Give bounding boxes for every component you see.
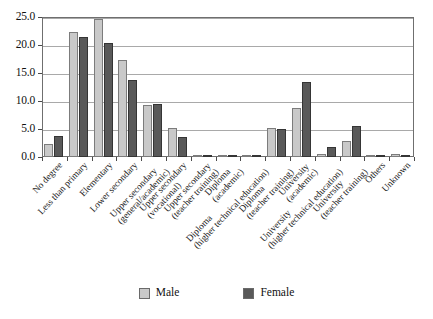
legend-label-female: Female: [260, 287, 294, 299]
bar-group: [240, 17, 265, 157]
y-tick-label: 25.0: [0, 11, 35, 23]
bar-female[interactable]: [104, 43, 113, 157]
bar-group: [364, 17, 389, 157]
bar-male[interactable]: [44, 144, 53, 157]
bar-female[interactable]: [327, 147, 336, 157]
bars-layer: [42, 17, 414, 157]
legend: Male Female: [0, 283, 433, 303]
legend-entry-male[interactable]: Male: [139, 287, 180, 299]
bar-group: [42, 17, 67, 157]
bar-male[interactable]: [342, 141, 351, 157]
bar-male[interactable]: [118, 60, 127, 157]
bar-female[interactable]: [252, 155, 261, 157]
legend-entry-female[interactable]: Female: [243, 287, 294, 299]
bar-male[interactable]: [69, 32, 78, 157]
y-tick-label: 20.0: [0, 39, 35, 51]
bar-male[interactable]: [193, 155, 202, 157]
bar-male[interactable]: [218, 155, 227, 157]
bar-female[interactable]: [352, 126, 361, 157]
bar-group: [116, 17, 141, 157]
bar-female[interactable]: [153, 104, 162, 157]
bar-group: [315, 17, 340, 157]
bar-male[interactable]: [242, 155, 251, 157]
x-axis-labels: No degreeLess than primaryElementaryLowe…: [0, 160, 433, 280]
bar-female[interactable]: [302, 82, 311, 157]
bar-female[interactable]: [401, 155, 410, 157]
bar-group: [92, 17, 117, 157]
bar-female[interactable]: [178, 137, 187, 157]
bar-group: [389, 17, 414, 157]
bar-male[interactable]: [168, 128, 177, 157]
bar-chart: 25.0 20.0 15.0 10.0 5.0 0.0 No degreeLes…: [0, 0, 433, 319]
bar-male[interactable]: [366, 155, 375, 157]
bar-female[interactable]: [79, 37, 88, 157]
bar-female[interactable]: [376, 155, 385, 157]
bar-male[interactable]: [317, 154, 326, 157]
bar-female[interactable]: [277, 129, 286, 157]
y-tick-label: 15.0: [0, 67, 35, 79]
legend-swatch-female-icon: [243, 288, 254, 299]
bar-male[interactable]: [292, 108, 301, 157]
bar-group: [216, 17, 241, 157]
bar-female[interactable]: [54, 136, 63, 157]
y-tick-label: 10.0: [0, 95, 35, 107]
bar-group: [265, 17, 290, 157]
y-tick-label: 5.0: [0, 123, 35, 135]
bar-group: [340, 17, 365, 157]
bar-group: [290, 17, 315, 157]
bar-male[interactable]: [143, 105, 152, 157]
bar-female[interactable]: [128, 80, 137, 157]
bar-group: [191, 17, 216, 157]
bar-group: [166, 17, 191, 157]
legend-label-male: Male: [156, 287, 180, 299]
bar-female[interactable]: [228, 155, 237, 157]
bar-male[interactable]: [94, 19, 103, 157]
legend-swatch-male-icon: [139, 288, 150, 299]
bar-female[interactable]: [203, 155, 212, 157]
bar-male[interactable]: [391, 154, 400, 157]
bar-group: [141, 17, 166, 157]
bar-male[interactable]: [267, 128, 276, 157]
bar-group: [67, 17, 92, 157]
